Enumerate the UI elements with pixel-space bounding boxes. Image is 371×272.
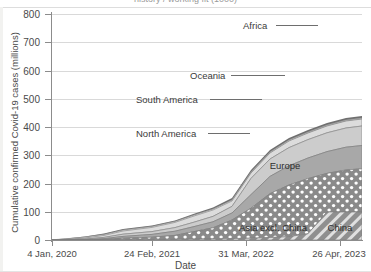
chart-screenshot: history / working fit (1000) 0 100 200 3…: [0, 0, 371, 272]
annotation-europe: Europe: [270, 160, 301, 171]
y-tick-label-700: 700: [0, 37, 40, 48]
annotation-africa: Africa: [243, 20, 267, 31]
x-tick-3: [340, 240, 341, 246]
annotation-north-america: North America: [136, 128, 196, 139]
y-tick-label-0: 0: [0, 235, 40, 246]
x-axis-line: [51, 240, 363, 241]
y-tick-label-400: 400: [0, 122, 40, 133]
annotation-oceania: Oceania: [190, 70, 225, 81]
plot-area: [52, 14, 362, 240]
leader-oceania: [231, 75, 285, 76]
x-tick-2: [246, 240, 247, 246]
y-tick-label-500: 500: [0, 93, 40, 104]
leader-north-america: [208, 133, 250, 134]
y-axis-title: Cumulative confirmed Covid-19 cases (mil…: [9, 15, 20, 251]
left-gutter: [0, 7, 3, 272]
annotation-asia-excl-china: Asia excl. China: [239, 222, 307, 233]
x-tick-label-3: 26 Apr, 2023: [312, 248, 365, 259]
y-tick-label-800: 800: [0, 9, 40, 20]
leader-africa: [276, 25, 318, 26]
x-tick-label-1: 24 Feb, 2021: [124, 248, 180, 259]
y-tick-label-200: 200: [0, 178, 40, 189]
leader-south-america: [210, 99, 262, 100]
x-tick-1: [152, 240, 153, 246]
x-tick-label-2: 31 Mar, 2022: [218, 248, 273, 259]
y-tick-label-100: 100: [0, 206, 40, 217]
stacked-area-canvas: [52, 14, 362, 240]
annotation-china: China: [328, 222, 353, 233]
y-tick-label-300: 300: [0, 150, 40, 161]
stacked-area-svg: [52, 14, 362, 240]
x-axis-title: Date: [0, 260, 371, 271]
y-tick-label-600: 600: [0, 65, 40, 76]
x-tick-label-0: 4 Jan, 2020: [27, 248, 77, 259]
x-tick-0: [52, 240, 53, 246]
annotation-south-america: South America: [136, 94, 198, 105]
